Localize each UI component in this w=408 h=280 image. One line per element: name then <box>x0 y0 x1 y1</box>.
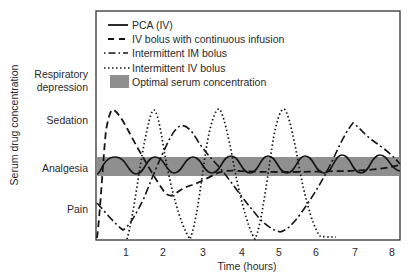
plot-frame <box>96 11 400 240</box>
y-level-analgesia: Analgesia <box>42 162 88 174</box>
y-level-respiratory: Respiratory <box>34 68 88 80</box>
x-tick-3: 3 <box>200 246 206 258</box>
legend-label-iv-continuous: IV bolus with continuous infusion <box>132 33 285 45</box>
chart-canvas: PCA (IV) IV bolus with continuous infusi… <box>0 0 408 280</box>
legend-label-iv-intermittent: Intermittent IV bolus <box>132 62 225 74</box>
y-axis-title: Serum drug concentration <box>8 64 20 185</box>
x-tick-labels: 1 2 3 4 5 6 7 8 <box>123 246 395 258</box>
legend-swatch-band <box>110 75 129 88</box>
y-level-sedation: Sedation <box>47 114 89 126</box>
legend-label-optimal: Optimal serum concentration <box>132 76 266 88</box>
x-tick-8: 8 <box>389 246 395 258</box>
legend-label-im: Intermittent IM bolus <box>132 47 227 59</box>
x-tick-5: 5 <box>276 246 282 258</box>
x-tick-7: 7 <box>352 246 358 258</box>
x-tick-6: 6 <box>313 246 319 258</box>
x-tick-2: 2 <box>160 246 166 258</box>
y-level-pain: Pain <box>67 203 88 215</box>
y-level-depression: depression <box>37 81 89 93</box>
x-axis-title: Time (hours) <box>217 260 276 272</box>
x-tick-1: 1 <box>123 246 129 258</box>
x-tick-4: 4 <box>239 246 245 258</box>
legend-label-pca: PCA (IV) <box>132 19 173 31</box>
